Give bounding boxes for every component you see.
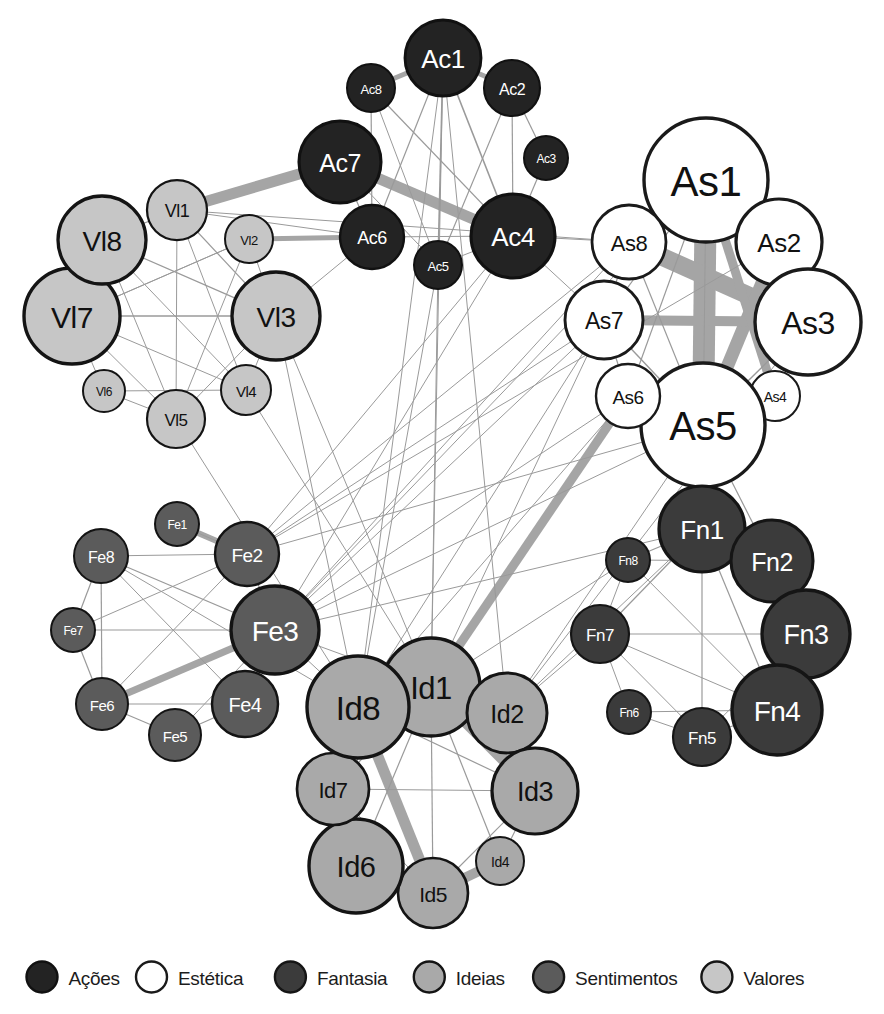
graph-node-ac4[interactable]: Ac4 <box>471 194 555 278</box>
network-graph: Ac1Ac2Ac3Ac4Ac5Ac6Ac7Ac8As1As2As3As4As5A… <box>0 0 884 1014</box>
node-circle[interactable] <box>340 205 404 269</box>
node-circle[interactable] <box>58 196 146 284</box>
node-circle[interactable] <box>212 671 278 737</box>
legend-item-fe[interactable]: Sentimentos <box>533 962 677 993</box>
node-circle[interactable] <box>147 390 205 448</box>
graph-node-id7[interactable]: Id7 <box>297 753 369 825</box>
node-circle[interactable] <box>225 215 273 263</box>
graph-edge <box>431 265 438 687</box>
graph-node-fe4[interactable]: Fe4 <box>212 671 278 737</box>
graph-node-fe3[interactable]: Fe3 <box>231 586 319 674</box>
graph-node-fn5[interactable]: Fn5 <box>673 708 731 766</box>
graph-node-fe7[interactable]: Fe7 <box>51 608 95 652</box>
legend-swatch <box>414 962 445 993</box>
graph-node-vl4[interactable]: Vl4 <box>221 365 271 415</box>
node-circle[interactable] <box>596 364 660 428</box>
legend-item-ac[interactable]: Ações <box>27 962 120 993</box>
legend-swatch <box>701 962 732 993</box>
legend-swatch <box>27 962 58 993</box>
legend-label: Fantasia <box>317 968 388 989</box>
node-circle[interactable] <box>309 819 403 913</box>
graph-node-id5[interactable]: Id5 <box>398 858 468 928</box>
graph-node-fn6[interactable]: Fn6 <box>607 690 651 734</box>
node-circle[interactable] <box>565 281 643 359</box>
node-circle[interactable] <box>471 194 555 278</box>
node-circle[interactable] <box>231 586 319 674</box>
graph-node-fn4[interactable]: Fn4 <box>732 665 822 755</box>
graph-node-vl3[interactable]: Vl3 <box>232 272 320 360</box>
node-circle[interactable] <box>755 269 861 375</box>
node-circle[interactable] <box>592 205 666 279</box>
graph-node-vl8[interactable]: Vl8 <box>58 196 146 284</box>
graph-node-ac6[interactable]: Ac6 <box>340 205 404 269</box>
node-circle[interactable] <box>74 529 128 583</box>
graph-node-id4[interactable]: Id4 <box>476 837 524 885</box>
graph-node-vl1[interactable]: Vl1 <box>147 180 207 240</box>
node-circle[interactable] <box>484 60 540 116</box>
graph-node-id2[interactable]: Id2 <box>467 673 547 753</box>
graph-node-ac1[interactable]: Ac1 <box>405 20 481 96</box>
graph-edge <box>247 320 604 554</box>
graph-node-vl2[interactable]: Vl2 <box>225 215 273 263</box>
node-circle[interactable] <box>347 64 395 112</box>
node-circle[interactable] <box>149 709 201 761</box>
node-circle[interactable] <box>398 858 468 928</box>
node-circle[interactable] <box>405 20 481 96</box>
node-circle[interactable] <box>607 690 651 734</box>
graph-node-vl5[interactable]: Vl5 <box>147 390 205 448</box>
node-circle[interactable] <box>524 136 568 180</box>
legend-item-as[interactable]: Estética <box>136 962 244 993</box>
graph-node-fe1[interactable]: Fe1 <box>155 502 199 546</box>
graph-node-ac2[interactable]: Ac2 <box>484 60 540 116</box>
node-circle[interactable] <box>155 502 199 546</box>
graph-node-as5[interactable]: As5 <box>641 363 765 487</box>
graph-node-fe2[interactable]: Fe2 <box>215 522 279 586</box>
legend-item-id[interactable]: Ideias <box>414 962 505 993</box>
node-circle[interactable] <box>641 363 765 487</box>
node-circle[interactable] <box>215 522 279 586</box>
graph-node-fe8[interactable]: Fe8 <box>74 529 128 583</box>
node-circle[interactable] <box>414 241 462 289</box>
graph-node-as7[interactable]: As7 <box>565 281 643 359</box>
node-circle[interactable] <box>297 753 369 825</box>
node-circle[interactable] <box>147 180 207 240</box>
node-circle[interactable] <box>76 678 128 730</box>
graph-node-fe5[interactable]: Fe5 <box>149 709 201 761</box>
graph-node-fn8[interactable]: Fn8 <box>606 538 650 582</box>
graph-node-ac7[interactable]: Ac7 <box>299 121 381 203</box>
node-circle[interactable] <box>51 608 95 652</box>
node-circle[interactable] <box>299 121 381 203</box>
node-circle[interactable] <box>467 673 547 753</box>
graph-node-id6[interactable]: Id6 <box>309 819 403 913</box>
graph-node-id8[interactable]: Id8 <box>307 656 409 758</box>
node-circle[interactable] <box>673 708 731 766</box>
legend-item-vl[interactable]: Valores <box>701 962 804 993</box>
graph-node-ac5[interactable]: Ac5 <box>414 241 462 289</box>
node-layer: Ac1Ac2Ac3Ac4Ac5Ac6Ac7Ac8As1As2As3As4As5A… <box>24 20 861 928</box>
node-circle[interactable] <box>232 272 320 360</box>
node-circle[interactable] <box>571 605 629 663</box>
legend-label: Estética <box>178 968 244 989</box>
legend-swatch <box>275 962 306 993</box>
graph-node-ac3[interactable]: Ac3 <box>524 136 568 180</box>
legend-label: Ações <box>69 968 120 989</box>
legend-swatch <box>136 962 167 993</box>
graph-edge <box>275 396 628 630</box>
graph-node-vl6[interactable]: Vl6 <box>83 370 125 412</box>
graph-node-as3[interactable]: As3 <box>755 269 861 375</box>
graph-node-fe6[interactable]: Fe6 <box>76 678 128 730</box>
node-circle[interactable] <box>476 837 524 885</box>
graph-node-as6[interactable]: As6 <box>596 364 660 428</box>
graph-node-ac8[interactable]: Ac8 <box>347 64 395 112</box>
node-circle[interactable] <box>492 748 578 834</box>
legend-label: Valores <box>743 968 804 989</box>
node-circle[interactable] <box>606 538 650 582</box>
node-circle[interactable] <box>83 370 125 412</box>
node-circle[interactable] <box>221 365 271 415</box>
graph-node-fn7[interactable]: Fn7 <box>571 605 629 663</box>
graph-node-id3[interactable]: Id3 <box>492 748 578 834</box>
node-circle[interactable] <box>307 656 409 758</box>
node-circle[interactable] <box>732 665 822 755</box>
legend-item-fn[interactable]: Fantasia <box>275 962 388 993</box>
graph-node-as8[interactable]: As8 <box>592 205 666 279</box>
